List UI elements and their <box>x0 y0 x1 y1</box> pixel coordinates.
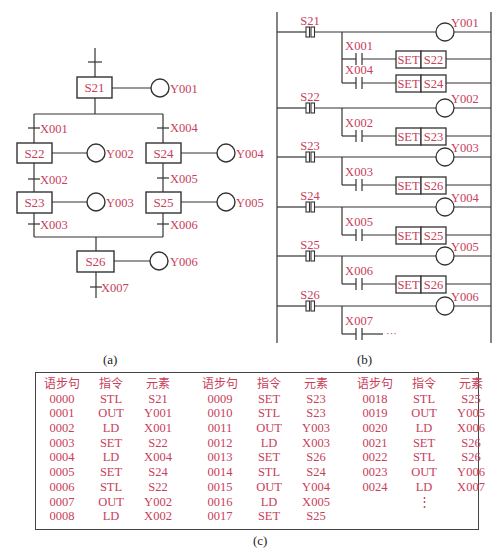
coil-label: Y001 <box>451 16 479 30</box>
output-label: Y001 <box>170 82 198 96</box>
table-row: 0024LDX007 <box>352 480 492 495</box>
table-row: 0018STLS25 <box>352 392 492 407</box>
table-row: ⋮ <box>352 495 492 510</box>
contact-label: X004 <box>345 63 374 77</box>
element: Y003 <box>295 421 337 436</box>
table-row: 0013SETS26 <box>197 450 337 465</box>
step-number: 0014 <box>197 465 243 480</box>
step-number <box>352 495 398 510</box>
instruction: STL <box>243 465 295 480</box>
contact-label: X003 <box>345 165 373 179</box>
figure: S21 Y001 X001 S22 Y002 X002 S23 Y003 X00… <box>0 0 499 558</box>
set-target-label: S22 <box>424 53 443 67</box>
table-header: 语步句 指令 元素 <box>39 377 179 392</box>
element: Y006 <box>450 465 492 480</box>
table-header: 语步句 指令 元素 <box>352 377 492 392</box>
transition-label: X001 <box>40 122 68 136</box>
instruction: SET <box>85 465 137 480</box>
set-target-label: S23 <box>424 130 443 144</box>
step-number: 0017 <box>197 509 243 524</box>
stl-label: S24 <box>300 189 320 203</box>
instruction: OUT <box>85 406 137 421</box>
element: X004 <box>137 450 179 465</box>
element <box>450 495 492 510</box>
step-label: S25 <box>153 195 173 210</box>
instruction: SET <box>243 450 295 465</box>
stl-contact-icon <box>306 103 310 113</box>
set-target-label: S26 <box>424 278 443 292</box>
instruction: LD <box>85 421 137 436</box>
output-coil-icon <box>150 252 168 270</box>
header-element: 元素 <box>295 377 337 392</box>
table-row: 0020LDX006 <box>352 421 492 436</box>
step-number: 0006 <box>39 480 85 495</box>
instruction: LD <box>243 495 295 510</box>
element: S23 <box>295 406 337 421</box>
table-row: 0015OUTY004 <box>197 480 337 495</box>
coil-label: Y006 <box>451 290 479 304</box>
caption-c: (c) <box>253 533 267 549</box>
transition-label: X003 <box>40 218 68 232</box>
table-column-3: 语步句 指令 元素 0018STLS250019OUTY0050020LDX00… <box>352 377 492 509</box>
instruction: SET <box>243 392 295 407</box>
instruction: LD <box>85 450 137 465</box>
header-step: 语步句 <box>197 377 243 392</box>
instruction: OUT <box>398 406 450 421</box>
output-coil-icon <box>87 144 105 162</box>
step-number: 0012 <box>197 436 243 451</box>
set-label: SET <box>397 130 420 144</box>
element: S24 <box>295 465 337 480</box>
step-number: 0023 <box>352 465 398 480</box>
transition-label: X004 <box>170 121 199 135</box>
element: X006 <box>450 421 492 436</box>
contact-label: X005 <box>345 215 373 229</box>
step-number: 0013 <box>197 450 243 465</box>
step-number: 0004 <box>39 450 85 465</box>
coil-label: Y002 <box>451 92 479 106</box>
element: S25 <box>295 509 337 524</box>
header-instruction: 指令 <box>85 377 137 392</box>
set-label: SET <box>397 278 420 292</box>
table-row: 0009SETS23 <box>197 392 337 407</box>
contact-label: X007 <box>345 314 373 328</box>
instruction: ⋮ <box>398 495 450 510</box>
table-row: 0012LDX003 <box>197 436 337 451</box>
step-label: S24 <box>153 146 174 161</box>
stl-label: S23 <box>300 139 319 153</box>
step-number: 0024 <box>352 480 398 495</box>
sfc-diagram: S21 Y001 X001 S22 Y002 X002 S23 Y003 X00… <box>17 48 265 298</box>
element: S21 <box>137 392 179 407</box>
step-label: S26 <box>85 254 106 269</box>
set-label: SET <box>397 229 420 243</box>
instruction: SET <box>398 436 450 451</box>
step-number: 0002 <box>39 421 85 436</box>
stl-label: S26 <box>300 288 319 302</box>
output-coil-icon <box>87 193 105 211</box>
table-row: 0007OUTY002 <box>39 495 179 510</box>
set-target-label: S25 <box>424 229 443 243</box>
element: S23 <box>295 392 337 407</box>
table-row: 0000STLS21 <box>39 392 179 407</box>
step-number: 0010 <box>197 406 243 421</box>
instruction: STL <box>398 392 450 407</box>
element: Y001 <box>137 406 179 421</box>
transition-label: X006 <box>170 218 198 232</box>
output-coil-icon <box>151 79 169 97</box>
instruction: OUT <box>243 421 295 436</box>
instruction: LD <box>243 436 295 451</box>
step-number: 0015 <box>197 480 243 495</box>
output-coil-icon <box>217 193 235 211</box>
instruction: SET <box>85 436 137 451</box>
instruction: OUT <box>85 495 137 510</box>
instruction: STL <box>243 406 295 421</box>
coil-label: Y005 <box>451 240 479 254</box>
instruction: OUT <box>398 465 450 480</box>
table-row: 0022STLS26 <box>352 450 492 465</box>
header-step: 语步句 <box>352 377 398 392</box>
instruction: STL <box>85 480 137 495</box>
output-label: Y002 <box>106 147 134 161</box>
stl-contact-icon <box>306 27 310 37</box>
step-number: 0018 <box>352 392 398 407</box>
stl-label: S21 <box>300 14 319 28</box>
output-label: Y003 <box>106 196 134 210</box>
